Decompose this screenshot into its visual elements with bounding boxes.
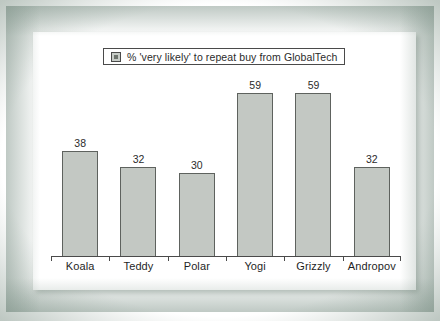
bar-value-label: 38 xyxy=(74,138,86,149)
chart-legend: % 'very likely' to repeat buy from Globa… xyxy=(103,48,345,65)
category-label-teddy: Teddy xyxy=(109,260,167,272)
category-label-andropov: Andropov xyxy=(343,260,401,272)
bar-grizzly[interactable] xyxy=(295,93,331,256)
bar-yogi[interactable] xyxy=(237,93,273,256)
bar-andropov[interactable] xyxy=(354,167,390,256)
bar-slot-andropov: 32 xyxy=(343,76,401,256)
bar-teddy[interactable] xyxy=(120,167,156,256)
bar-value-label: 59 xyxy=(308,80,320,91)
bar-series: 38 32 30 59 59 xyxy=(51,76,401,256)
bar-slot-polar: 30 xyxy=(168,76,226,256)
chart-panel: % 'very likely' to repeat buy from Globa… xyxy=(33,32,416,290)
bar-chart-figure: % 'very likely' to repeat buy from Globa… xyxy=(0,0,440,321)
bar-slot-grizzly: 59 xyxy=(284,76,342,256)
bar-slot-koala: 38 xyxy=(51,76,109,256)
bar-slot-yogi: 59 xyxy=(226,76,284,256)
bar-value-label: 59 xyxy=(249,80,261,91)
plot-area: 38 32 30 59 59 xyxy=(51,76,401,256)
category-label-grizzly: Grizzly xyxy=(284,260,342,272)
bar-value-label: 32 xyxy=(133,154,145,165)
square-swatch-icon xyxy=(111,52,121,62)
bar-polar[interactable] xyxy=(179,173,215,256)
legend-entry-label: % 'very likely' to repeat buy from Globa… xyxy=(127,51,337,63)
x-axis-category-labels: Koala Teddy Polar Yogi Grizzly Andropov xyxy=(51,260,401,272)
category-label-yogi: Yogi xyxy=(226,260,284,272)
category-label-koala: Koala xyxy=(51,260,109,272)
bar-value-label: 30 xyxy=(191,160,203,171)
bar-value-label: 32 xyxy=(366,154,378,165)
category-label-polar: Polar xyxy=(168,260,226,272)
bar-slot-teddy: 32 xyxy=(109,76,167,256)
bar-koala[interactable] xyxy=(62,151,98,256)
